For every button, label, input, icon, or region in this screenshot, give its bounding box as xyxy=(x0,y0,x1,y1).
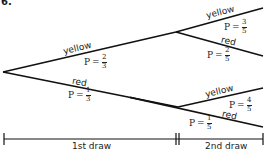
prob-yellow-first: P = 2 3 xyxy=(84,54,107,70)
fraction: 1 5 xyxy=(207,115,212,131)
timeline-first-draw-label: 1st draw xyxy=(72,142,111,151)
fraction: 2 3 xyxy=(102,54,107,70)
prob-yellow-red: P = 2 5 xyxy=(207,47,230,63)
probability-tree-diagram: 6. yellow P = 2 3 red P = 1 3 yellow P =… xyxy=(0,0,265,153)
prob-red-red: P = 1 5 xyxy=(189,115,212,131)
prob-yellow-yellow: P = 3 5 xyxy=(224,19,247,35)
prob-red-first: P = 1 3 xyxy=(68,87,91,103)
timeline-second-draw-label: 2nd draw xyxy=(205,142,247,151)
fraction: 1 3 xyxy=(86,87,91,103)
fraction: 3 5 xyxy=(242,19,247,35)
fraction: 2 5 xyxy=(225,47,230,63)
problem-number: 6. xyxy=(1,0,12,7)
fraction: 4 5 xyxy=(247,97,252,113)
